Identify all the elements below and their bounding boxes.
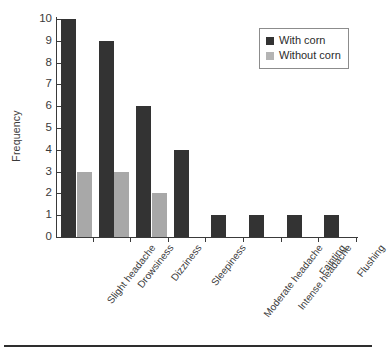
bar bbox=[61, 19, 76, 237]
bar bbox=[249, 215, 264, 237]
bar bbox=[174, 150, 189, 237]
y-tick-label: 2 bbox=[46, 187, 52, 199]
y-tick-label: 7 bbox=[46, 78, 52, 90]
bar bbox=[99, 41, 114, 237]
bar bbox=[287, 215, 302, 237]
x-tick-mark bbox=[130, 238, 131, 242]
y-tick-label: 4 bbox=[46, 144, 52, 156]
y-tick-label: 5 bbox=[46, 122, 52, 134]
y-tick-label: 0 bbox=[46, 231, 52, 243]
legend-swatch-without-corn-icon bbox=[266, 52, 274, 60]
bar bbox=[211, 215, 226, 237]
legend-item-without-corn: Without corn bbox=[266, 48, 341, 63]
chart-legend: With corn Without corn bbox=[259, 28, 349, 69]
y-tick-label: 8 bbox=[46, 57, 52, 69]
y-axis-title: Frequency bbox=[10, 96, 22, 176]
y-tick-label: 9 bbox=[46, 35, 52, 47]
bar bbox=[136, 106, 151, 237]
bar bbox=[152, 193, 167, 237]
x-tick-mark bbox=[243, 238, 244, 242]
x-tick-mark bbox=[318, 238, 319, 242]
x-tick-mark bbox=[93, 238, 94, 242]
y-tick-label: 6 bbox=[46, 100, 52, 112]
legend-item-with-corn: With corn bbox=[266, 33, 341, 48]
y-tick-label: 3 bbox=[46, 166, 52, 178]
x-axis-category-labels: Slight headacheDrowsinessDizzinessSleepi… bbox=[0, 243, 376, 338]
x-tick-mark bbox=[356, 238, 357, 242]
legend-swatch-with-corn-icon bbox=[266, 37, 274, 45]
bar bbox=[324, 215, 339, 237]
x-axis-line bbox=[56, 237, 358, 238]
x-tick-mark bbox=[281, 238, 282, 242]
x-tick-mark bbox=[168, 238, 169, 242]
legend-label-with-corn: With corn bbox=[279, 35, 325, 46]
x-category-label: Sleepiness bbox=[210, 243, 248, 288]
x-tick-mark bbox=[205, 238, 206, 242]
x-category-label: Flushing bbox=[356, 243, 387, 279]
legend-label-without-corn: Without corn bbox=[279, 50, 341, 61]
bar bbox=[114, 172, 129, 237]
bar bbox=[77, 172, 92, 237]
bottom-divider bbox=[4, 345, 372, 347]
y-tick-label: 10 bbox=[39, 13, 52, 25]
y-tick-label: 1 bbox=[46, 209, 52, 221]
